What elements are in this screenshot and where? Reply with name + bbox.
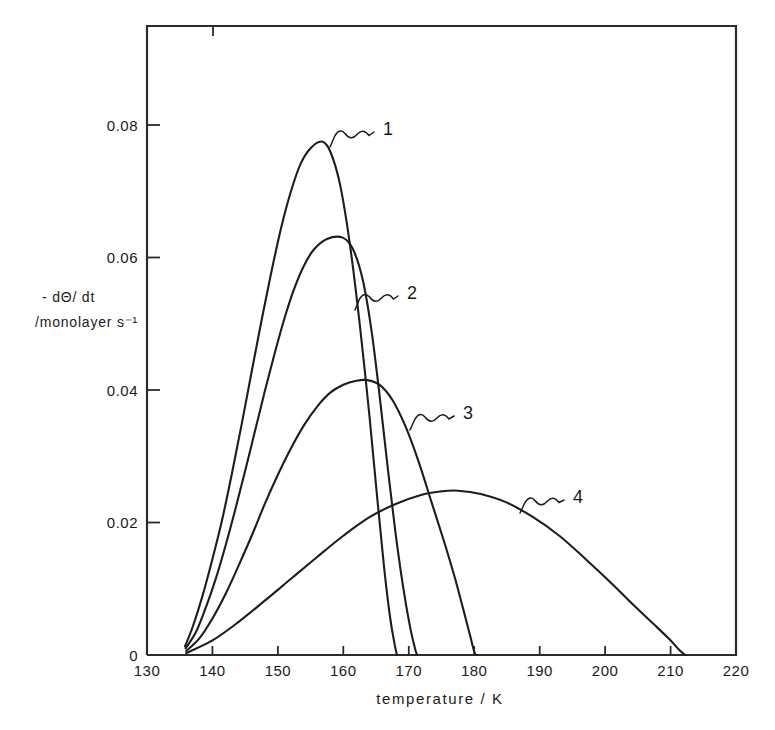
- data-curves: [185, 142, 685, 655]
- y-tick-label-0: 0: [129, 647, 138, 664]
- curve-label-1: 1: [383, 119, 393, 139]
- leader-line-4: [520, 498, 564, 513]
- leader-line-1: [330, 131, 374, 147]
- y-axis-title: - dΘ/ dt /monolayer s⁻¹: [35, 289, 138, 330]
- y-axis-title-line2: /monolayer s⁻¹: [35, 314, 138, 330]
- curve-label-4: 4: [573, 487, 583, 507]
- y-tick-label-4: 0.08: [107, 117, 138, 134]
- x-tick-label-8: 210: [657, 662, 684, 679]
- x-tick-label-3: 160: [330, 662, 357, 679]
- x-axis-title: temperature / K: [376, 690, 503, 707]
- annotation-leaders: [330, 131, 564, 513]
- y-axis-title-line1: - dΘ/ dt: [42, 289, 95, 305]
- figure-container: 130 140 150 160 170 180 190 200 210 220 …: [0, 0, 775, 730]
- x-tick-label-1: 140: [199, 662, 226, 679]
- axis-frame: [147, 26, 736, 655]
- curve-label-2: 2: [407, 283, 417, 303]
- chart-plot-area: 130 140 150 160 170 180 190 200 210 220 …: [0, 0, 775, 730]
- curve-2: [186, 237, 418, 655]
- x-tick-label-0: 130: [134, 662, 161, 679]
- x-axis-ticks: [147, 26, 736, 655]
- leader-line-3: [410, 414, 454, 430]
- x-tick-label-4: 170: [396, 662, 423, 679]
- x-tick-labels: 130 140 150 160 170 180 190 200 210 220: [134, 662, 750, 679]
- leader-line-2: [355, 294, 398, 310]
- x-tick-label-7: 200: [592, 662, 619, 679]
- x-tick-label-9: 220: [723, 662, 750, 679]
- y-tick-labels: 0 0.02 0.04 0.06 0.08: [107, 117, 138, 664]
- y-tick-label-3: 0.06: [107, 249, 138, 266]
- y-tick-label-1: 0.02: [107, 514, 138, 531]
- curve-label-3: 3: [463, 403, 473, 423]
- caption-strip: [0, 716, 775, 730]
- y-tick-label-2: 0.04: [107, 382, 138, 399]
- y-axis-ticks: [147, 125, 160, 655]
- x-tick-label-2: 150: [265, 662, 292, 679]
- x-tick-label-5: 180: [461, 662, 488, 679]
- curve-number-labels: 1234: [383, 119, 583, 507]
- x-tick-label-6: 190: [526, 662, 553, 679]
